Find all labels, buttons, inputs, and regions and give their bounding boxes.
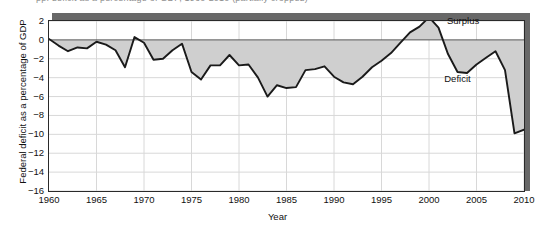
y-tick-label: −8 <box>18 110 44 120</box>
chart-svg <box>49 21 524 191</box>
x-tick-label: 1960 <box>29 195 69 205</box>
y-tick-label: 0 <box>18 35 44 45</box>
annotation-deficit: Deficit <box>444 73 470 84</box>
x-tick-label: 1975 <box>172 195 212 205</box>
x-tick-label: 1985 <box>267 195 307 205</box>
y-tick-label: −6 <box>18 92 44 102</box>
x-tick-label: 1965 <box>77 195 117 205</box>
y-tick-label: −14 <box>18 167 44 177</box>
y-tick-label: −4 <box>18 73 44 83</box>
x-tick-label: 2010 <box>504 195 544 205</box>
y-tick-label: −12 <box>18 148 44 158</box>
x-tick-label: 1990 <box>314 195 354 205</box>
x-tick-label: 1970 <box>124 195 164 205</box>
plot-area <box>48 20 525 192</box>
chart-figure: pp. deficit as a percentage of GDP, 1960… <box>0 0 555 230</box>
x-tick-label: 1980 <box>219 195 259 205</box>
y-tick-label: −10 <box>18 129 44 139</box>
annotation-surplus: Surplus <box>447 15 479 26</box>
cropped-title: pp. deficit as a percentage of GDP, 1960… <box>36 0 456 3</box>
x-tick-label: 2000 <box>409 195 449 205</box>
x-tick-label: 1995 <box>362 195 402 205</box>
x-axis-title: Year <box>0 211 555 222</box>
y-tick-label: 2 <box>18 16 44 26</box>
x-tick-label: 2005 <box>457 195 497 205</box>
y-tick-label: −2 <box>18 54 44 64</box>
